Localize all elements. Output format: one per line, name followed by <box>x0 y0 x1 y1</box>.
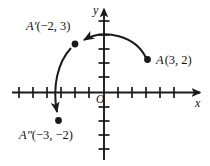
point-label-a-prime: A′(−2, 3) <box>26 20 71 33</box>
origin-label: O <box>96 94 104 106</box>
y-axis-label: y <box>93 4 98 16</box>
point-label-a: A (3, 2) <box>156 54 192 67</box>
point-label-a-coords: (3, 2) <box>165 53 192 67</box>
x-axis-label: x <box>195 97 200 109</box>
point-label-a-prime-name: A′ <box>26 19 36 33</box>
point-marker-a-double-prime <box>55 117 62 124</box>
point-marker-a-prime <box>72 41 79 48</box>
point-label-a-name: A <box>156 53 164 67</box>
point-label-a-double-prime-coords: (−3, −2) <box>32 128 73 142</box>
point-marker-a <box>144 56 151 63</box>
point-label-a-double-prime: A″(−3, −2) <box>19 129 73 142</box>
point-label-a-prime-coords: (−2, 3) <box>36 19 70 33</box>
point-label-a-double-prime-name: A″ <box>19 128 32 142</box>
